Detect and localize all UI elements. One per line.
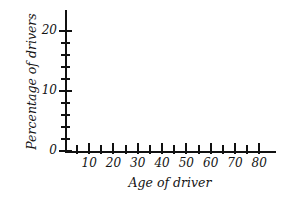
x-tick-mark xyxy=(198,145,200,154)
x-axis-line xyxy=(65,151,276,153)
x-tick-label: 10 xyxy=(76,157,102,169)
y-axis-title: Percentage of drivers xyxy=(24,7,39,157)
x-tick-mark xyxy=(173,145,175,154)
x-tick-label: 60 xyxy=(198,157,224,169)
x-tick-mark xyxy=(76,145,78,154)
x-tick-mark xyxy=(161,143,163,154)
x-tick-mark xyxy=(258,143,260,154)
y-tick-mark xyxy=(61,114,70,116)
y-tick-mark xyxy=(61,126,70,128)
y-tick-mark xyxy=(59,30,72,32)
y-tick-mark xyxy=(59,150,72,152)
chart-figure: 20100 1020304050607080 Percentage of dri… xyxy=(0,0,290,198)
y-tick-mark xyxy=(61,54,70,56)
y-tick-mark xyxy=(61,42,70,44)
x-tick-mark xyxy=(137,143,139,154)
x-tick-mark xyxy=(185,143,187,154)
x-tick-mark xyxy=(246,145,248,154)
x-tick-mark xyxy=(112,143,114,154)
plot-area xyxy=(67,10,276,151)
x-tick-label: 50 xyxy=(173,157,199,169)
x-tick-mark xyxy=(125,145,127,154)
x-tick-mark xyxy=(100,145,102,154)
x-tick-mark xyxy=(210,143,212,154)
x-tick-mark xyxy=(222,145,224,154)
x-tick-label: 30 xyxy=(125,157,151,169)
x-tick-label: 70 xyxy=(222,157,248,169)
y-tick-mark xyxy=(59,90,72,92)
x-tick-mark xyxy=(149,145,151,154)
y-tick-mark xyxy=(61,78,70,80)
x-tick-mark xyxy=(88,143,90,154)
x-tick-label: 80 xyxy=(246,157,272,169)
x-tick-label: 40 xyxy=(149,157,175,169)
y-tick-mark xyxy=(61,66,70,68)
x-tick-mark xyxy=(234,143,236,154)
y-tick-mark xyxy=(61,138,70,140)
x-tick-label: 20 xyxy=(100,157,126,169)
y-tick-mark xyxy=(61,102,70,104)
x-axis-title: Age of driver xyxy=(60,175,280,190)
